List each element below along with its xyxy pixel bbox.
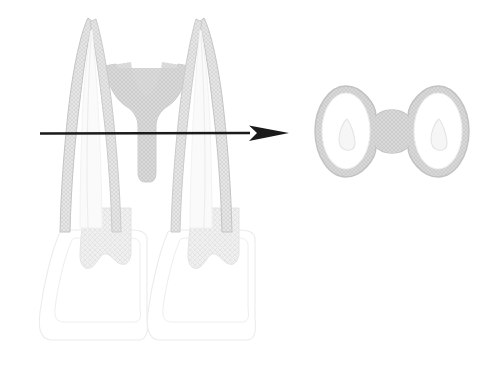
tooth-cross-section-figure bbox=[0, 0, 488, 372]
figure-root: Tooth root longitudinal view with transv… bbox=[0, 0, 488, 372]
cross-section-isthmus bbox=[376, 110, 408, 153]
section-arrow-shaft bbox=[40, 133, 250, 134]
